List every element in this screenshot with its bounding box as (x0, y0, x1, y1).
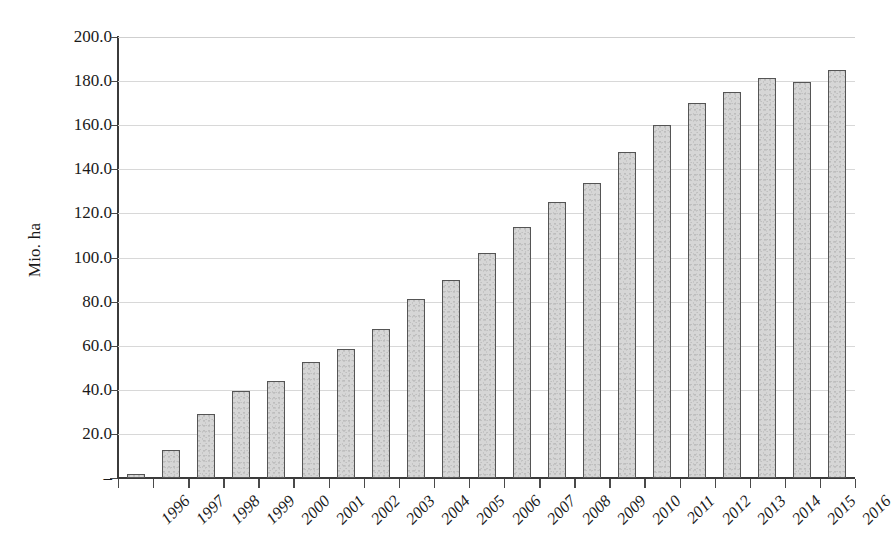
x-tick-mark (469, 479, 470, 488)
x-tick-label: 2016 (859, 492, 894, 527)
x-tick-mark (434, 479, 435, 488)
bar (442, 280, 460, 478)
x-tick-label: 2005 (473, 492, 508, 527)
y-tick-label: 120.0 (8, 204, 112, 221)
x-tick-label: 2003 (403, 492, 438, 527)
gridline (118, 37, 855, 38)
x-tick-label: 2008 (578, 492, 613, 527)
x-tick-label: 1996 (157, 492, 192, 527)
bar (513, 227, 531, 478)
y-tick-label: – (8, 469, 112, 486)
x-tick-mark (293, 479, 294, 488)
x-tick-mark (258, 479, 259, 488)
y-axis-ticks: –20.040.060.080.0100.0120.0140.0160.0180… (0, 0, 112, 560)
y-tick-label: 180.0 (8, 72, 112, 89)
x-tick-label: 2010 (649, 492, 684, 527)
bar (162, 450, 180, 478)
y-tick-label: 140.0 (8, 160, 112, 177)
y-tick-label: 40.0 (8, 381, 112, 398)
bar (618, 152, 636, 478)
x-tick-label: 2015 (824, 492, 859, 527)
x-tick-mark (153, 479, 154, 488)
x-tick-mark (574, 479, 575, 488)
x-tick-label: 2000 (298, 492, 333, 527)
x-tick-mark (715, 479, 716, 488)
bar (793, 82, 811, 478)
x-tick-label: 1997 (192, 492, 227, 527)
x-tick-mark (644, 479, 645, 488)
y-tick-label: 160.0 (8, 116, 112, 133)
x-tick-label: 2002 (368, 492, 403, 527)
bar (583, 183, 601, 478)
bar (232, 391, 250, 478)
x-tick-label: 2011 (683, 492, 717, 526)
bar (828, 70, 846, 478)
x-tick-mark (539, 479, 540, 488)
x-tick-mark (364, 479, 365, 488)
x-tick-label: 2009 (613, 492, 648, 527)
x-tick-label: 1999 (262, 492, 297, 527)
x-tick-label: 2012 (719, 492, 754, 527)
y-tick-label: 100.0 (8, 249, 112, 266)
x-tick-label: 2004 (438, 492, 473, 527)
x-tick-label: 2013 (754, 492, 789, 527)
bar (548, 202, 566, 478)
y-tick-label: 80.0 (8, 293, 112, 310)
x-tick-mark (680, 479, 681, 488)
plot-area (118, 37, 855, 478)
y-tick-label: 60.0 (8, 337, 112, 354)
bar (478, 253, 496, 478)
x-tick-mark (785, 479, 786, 488)
x-tick-mark (399, 479, 400, 488)
x-tick-mark (118, 479, 119, 488)
bar (267, 381, 285, 478)
bar (127, 474, 145, 478)
gridline (118, 125, 855, 126)
x-tick-label: 2006 (508, 492, 543, 527)
bar (372, 329, 390, 478)
x-tick-mark (188, 479, 189, 488)
x-tick-mark (329, 479, 330, 488)
y-tick-label: 20.0 (8, 425, 112, 442)
bar (688, 103, 706, 478)
x-tick-mark (750, 479, 751, 488)
x-tick-mark (223, 479, 224, 488)
bar (197, 414, 215, 478)
bar (337, 349, 355, 478)
x-tick-mark (855, 479, 856, 488)
bar (407, 299, 425, 478)
x-tick-mark (609, 479, 610, 488)
bar (653, 125, 671, 478)
x-tick-label: 2007 (543, 492, 578, 527)
gridline (118, 213, 855, 214)
x-tick-label: 2001 (333, 492, 368, 527)
gridline (118, 169, 855, 170)
bar (758, 78, 776, 478)
y-tick-label: 200.0 (8, 28, 112, 45)
gridline (118, 81, 855, 82)
bar (302, 362, 320, 478)
x-tick-mark (504, 479, 505, 488)
x-tick-label: 1998 (227, 492, 262, 527)
x-tick-label: 2014 (789, 492, 824, 527)
bar (723, 92, 741, 478)
x-tick-mark (820, 479, 821, 488)
